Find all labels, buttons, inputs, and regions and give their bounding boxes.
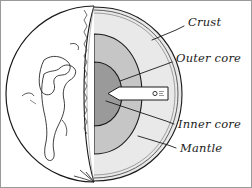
label-inner-core: Inner core	[177, 117, 241, 131]
label-crust: Crust	[188, 15, 221, 29]
label-outer-core: Outer core	[176, 51, 241, 65]
earth-cutaway-diagram: Crust Outer core Inner core Mantle	[0, 0, 252, 188]
inner-core-pointer-arrow	[108, 87, 168, 100]
label-mantle: Mantle	[179, 141, 222, 155]
